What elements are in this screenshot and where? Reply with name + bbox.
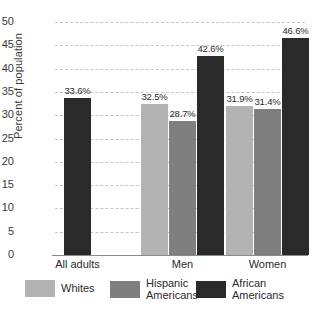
bar: 42.6%	[197, 56, 224, 255]
category-label-men: Men	[172, 258, 193, 270]
y-tick-label: 45	[0, 38, 14, 50]
bar-value-label: 31.9%	[227, 93, 253, 104]
gridline	[55, 69, 305, 70]
legend-swatch-icon	[110, 281, 140, 298]
gridline	[55, 22, 305, 23]
plot-area: 33.6%32.5%28.7%42.6%31.9%31.4%46.6%	[55, 22, 305, 255]
legend-item[interactable]: Whites	[25, 280, 95, 297]
category-label-all-adults: All adults	[55, 258, 100, 270]
bar-value-label: 33.6%	[65, 85, 91, 96]
legend-label: African Americans	[232, 278, 284, 301]
legend-label: Whites	[61, 283, 95, 295]
y-tick-label: 50	[0, 15, 14, 27]
bar-value-label: 31.4%	[255, 96, 281, 107]
legend-label: Hispanic Americans	[146, 278, 198, 301]
bar: 33.6%	[64, 98, 91, 255]
gridline	[55, 92, 305, 93]
bar-chart: Percent of population 504540353025201510…	[0, 0, 321, 317]
legend-item[interactable]: African Americans	[196, 278, 284, 301]
y-tick-label: 30	[0, 108, 14, 120]
bar: 31.9%	[226, 106, 253, 255]
x-axis-line	[52, 255, 308, 256]
y-tick-label: 10	[0, 201, 14, 213]
bar-value-label: 28.7%	[170, 108, 196, 119]
legend-item[interactable]: Hispanic Americans	[110, 278, 198, 301]
chart-legend: WhitesHispanic AmericansAfrican American…	[0, 278, 321, 317]
bar-value-label: 32.5%	[142, 91, 168, 102]
category-label-women: Women	[249, 258, 287, 270]
y-tick-label: 20	[0, 155, 14, 167]
y-tick-label: 0	[0, 248, 14, 260]
y-tick-label: 40	[0, 62, 14, 74]
bar: 28.7%	[169, 121, 196, 255]
y-tick-label: 15	[0, 178, 14, 190]
legend-swatch-icon	[25, 280, 55, 297]
legend-swatch-icon	[196, 281, 226, 298]
y-tick-label: 5	[0, 225, 14, 237]
bar-value-label: 46.6%	[283, 25, 309, 36]
bar: 31.4%	[254, 109, 281, 255]
bar: 32.5%	[141, 104, 168, 255]
bar-value-label: 42.6%	[198, 43, 224, 54]
bar: 46.6%	[282, 38, 309, 255]
y-tick-label: 35	[0, 85, 14, 97]
gridline	[55, 45, 305, 46]
y-tick-label: 25	[0, 132, 14, 144]
